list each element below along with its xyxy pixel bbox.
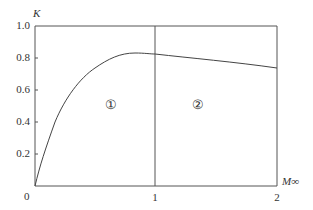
region-1-label: ① (105, 98, 117, 111)
x-tick-label: 2 (269, 192, 285, 203)
y-tick-label: 0.8 (0, 52, 30, 63)
k-curve (35, 53, 277, 186)
y-tick-label: 0.2 (0, 148, 30, 159)
x-tick-label: 1 (147, 192, 163, 203)
x-axis-title: M∞ (282, 176, 299, 187)
origin-label: 0 (24, 191, 30, 202)
chart-canvas (0, 0, 313, 210)
region-2-label: ② (192, 98, 204, 111)
y-tick-label: 0.6 (0, 84, 30, 95)
y-axis-title: K (33, 8, 40, 19)
y-tick-label: 1.0 (0, 20, 30, 31)
y-tick-label: 0.4 (0, 116, 30, 127)
